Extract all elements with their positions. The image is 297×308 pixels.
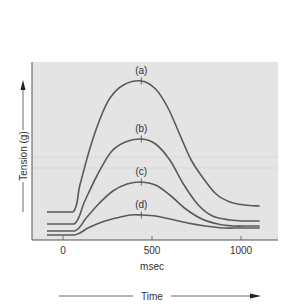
series-label-d: (d) <box>135 199 147 210</box>
series-label-b: (b) <box>135 123 147 134</box>
x-axis-label: msec <box>140 261 164 272</box>
series-label-c: (c) <box>135 166 147 177</box>
x-tick-label: 500 <box>144 245 161 256</box>
y-axis-arrow: Tension (g) <box>18 80 29 212</box>
x-tick-label: 0 <box>60 245 66 256</box>
time-arrow-head-icon <box>250 294 261 299</box>
time-arrow: Time <box>59 291 261 302</box>
series-label-a: (a) <box>135 65 147 76</box>
time-label: Time <box>141 291 163 302</box>
tension-time-chart: (a)(b)(c)(d) 05001000 msec Tension (g) T… <box>0 0 297 308</box>
x-tick-label: 1000 <box>230 245 253 256</box>
y-arrow-head-icon <box>21 80 26 90</box>
y-axis-label: Tension (g) <box>18 131 29 180</box>
